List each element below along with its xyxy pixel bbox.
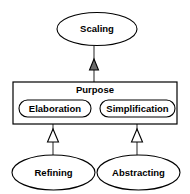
node-abstracting[interactable]: Abstracting <box>97 155 180 190</box>
node-scaling-label: Scaling <box>80 23 114 34</box>
node-refining[interactable]: Refining <box>12 155 95 190</box>
generalization-arrowhead-icon <box>132 129 143 142</box>
node-simplification[interactable]: Simplification <box>100 100 175 117</box>
node-elaboration-label: Elaboration <box>29 103 81 114</box>
node-simplification-label: Simplification <box>106 103 168 114</box>
generalization-arrowhead-icon <box>48 129 59 142</box>
node-abstracting-label: Abstracting <box>112 167 165 178</box>
edge-purpose-to-scaling <box>90 46 99 82</box>
node-elaboration[interactable]: Elaboration <box>19 100 91 117</box>
node-scaling[interactable]: Scaling <box>57 13 137 46</box>
node-refining-label: Refining <box>35 167 73 178</box>
diagram-canvas: Scaling Purpose Elaboration Simplificati… <box>0 0 190 194</box>
node-purpose-label: Purpose <box>76 84 114 95</box>
diagram-svg: Scaling Purpose Elaboration Simplificati… <box>0 0 190 194</box>
generalization-arrowhead-icon <box>90 59 99 70</box>
